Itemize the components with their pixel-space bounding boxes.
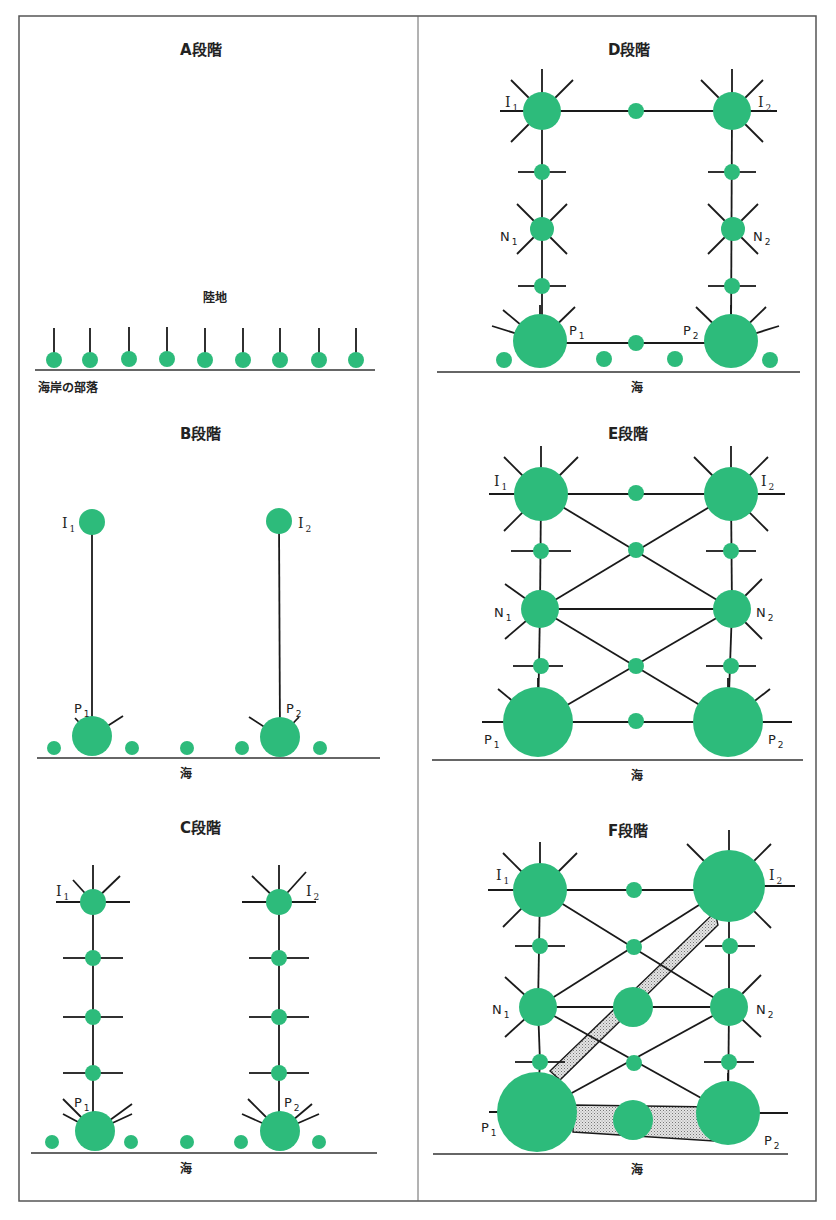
settlement-node [626,939,642,955]
node-label-n1: N1 [494,605,511,623]
route-link [279,521,280,737]
panel-title: D段階 [608,41,650,59]
panel-stage-a: A段階海岸の部落陸地 [35,41,375,395]
node-label-i2: I2 [298,515,311,534]
settlement-node [514,467,568,521]
settlement-node [596,351,612,367]
settlement-node [534,164,550,180]
panel-title: C段階 [180,819,221,837]
node-label-n1: N1 [500,229,517,247]
settlement-node [271,1065,287,1081]
settlement-node [521,590,559,628]
settlement-node [628,658,644,674]
settlement-node [704,467,758,521]
settlement-node [496,352,512,368]
settlement-node [704,314,758,368]
settlement-node [534,278,550,294]
settlement-node [762,352,778,368]
node-label-p1: P1 [74,701,90,719]
settlement-node [722,938,738,954]
settlement-node [85,1065,101,1081]
settlement-node [271,1009,287,1025]
settlement-node [628,542,644,558]
settlement-node [710,988,748,1026]
settlement-node [82,352,98,368]
settlement-node [266,508,292,534]
settlement-node [313,741,327,755]
stage-diagram-figure: A段階海岸の部落陸地B段階海I1I2P1P2C段階海I1I2P1P2D段階海I1… [0,0,836,1220]
settlement-node [125,741,139,755]
node-label-i2: I2 [306,883,319,902]
settlement-node [532,1054,548,1070]
coast-label: 海 [631,1162,643,1177]
settlement-node [533,543,549,559]
settlement-node [696,1081,760,1145]
settlement-node [723,658,739,674]
panel-title: F段階 [608,822,648,840]
settlement-node [532,938,548,954]
settlement-node [75,1111,115,1151]
node-label-i1: I1 [496,867,509,886]
node-label-p2: P2 [284,1095,300,1113]
settlement-node [266,889,292,915]
panel-title: E段階 [608,425,648,443]
settlement-node [497,1072,577,1152]
settlement-node [523,92,561,130]
node-label-p2: P2 [768,732,784,750]
node-label-n1: N1 [492,1002,509,1020]
settlement-node [234,1135,248,1149]
settlement-node [121,351,137,367]
settlement-node [724,278,740,294]
node-label-n2: N2 [756,1002,773,1020]
settlement-node [260,717,300,757]
panel-stage-e: E段階海I1I2N1N2P1P2 [432,425,803,783]
node-label-i2: I2 [761,473,774,492]
settlement-node [724,164,740,180]
settlement-node [723,543,739,559]
settlement-node [271,950,287,966]
settlement-node [124,1135,138,1149]
settlement-node [628,103,644,119]
node-label-p1: P1 [74,1095,90,1113]
settlement-node [47,741,61,755]
panel-stage-f: F段階海I1I2N1N2P1P2 [433,822,795,1177]
settlement-node [693,687,763,757]
node-label-i2: I2 [769,867,782,886]
land-label: 陸地 [203,290,227,305]
settlement-node [180,1135,194,1149]
settlement-node [667,351,683,367]
settlement-node [626,882,642,898]
settlement-node [260,1111,300,1151]
node-label-p1: P1 [569,323,585,341]
settlement-node [628,335,644,351]
node-label-n2: N2 [756,605,773,623]
coast-label: 海 [631,768,643,783]
node-label-i1: I1 [56,883,69,902]
settlement-node [713,590,751,628]
settlement-node [533,658,549,674]
coast-label: 海 [631,380,643,395]
settlement-node [311,352,327,368]
settlement-node [235,741,249,755]
settlement-node [693,850,765,922]
settlement-node [180,741,194,755]
coast-label: 海 [180,1161,192,1176]
settlement-node [519,988,557,1026]
settlement-node [721,217,745,241]
settlement-node [72,716,112,756]
settlement-node [159,351,175,367]
coast-label: 海 [180,766,192,781]
node-label-p2: P2 [286,701,302,719]
settlement-node [79,509,105,535]
panel-title: B段階 [180,425,221,443]
settlement-node [45,1135,59,1149]
settlement-node [85,1009,101,1025]
panel-stage-b: B段階海I1I2P1P2 [37,425,380,781]
settlement-node [613,987,653,1027]
settlement-node [628,485,644,501]
coast-label: 海岸の部落 [38,380,99,395]
node-label-i1: I1 [62,515,75,534]
settlement-node [530,217,554,241]
panel-stage-c: C段階海I1I2P1P2 [31,819,377,1176]
settlement-node [503,687,573,757]
